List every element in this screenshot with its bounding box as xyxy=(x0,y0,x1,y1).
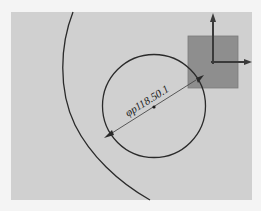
circle-center-point[interactable] xyxy=(152,105,155,108)
sketch-canvas[interactable]: φp118.50.1 xyxy=(0,0,261,211)
